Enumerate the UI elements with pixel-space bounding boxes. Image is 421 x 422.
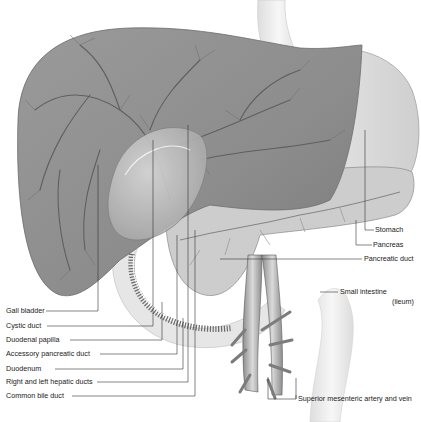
anatomy-figure: Gall bladder Cystic duct Duodenal papill… bbox=[0, 0, 421, 422]
label-gall-bladder: Gall bladder bbox=[6, 306, 45, 315]
label-pancreatic-duct: Pancreatic duct bbox=[364, 254, 414, 263]
label-accessory-pancreatic-duct: Accessory pancreatic duct bbox=[6, 349, 90, 358]
label-small-intestine-sub: (ileum) bbox=[392, 297, 414, 306]
label-duodenal-papilla: Duodenal papilla bbox=[6, 335, 60, 344]
label-cystic-duct: Cystic duct bbox=[6, 321, 41, 330]
label-common-bile-duct: Common bile duct bbox=[6, 391, 64, 400]
label-duodenum: Duodenum bbox=[6, 364, 41, 373]
anatomy-illustration bbox=[0, 0, 421, 422]
label-right-left-hepatic-ducts: Right and left hepatic ducts bbox=[6, 377, 93, 386]
label-superior-mesenteric: Superior mesenteric artery and vein bbox=[298, 394, 412, 403]
label-stomach: Stomach bbox=[375, 225, 403, 234]
label-small-intestine: Small intestine bbox=[340, 287, 387, 296]
label-pancreas: Pancreas bbox=[373, 240, 403, 249]
